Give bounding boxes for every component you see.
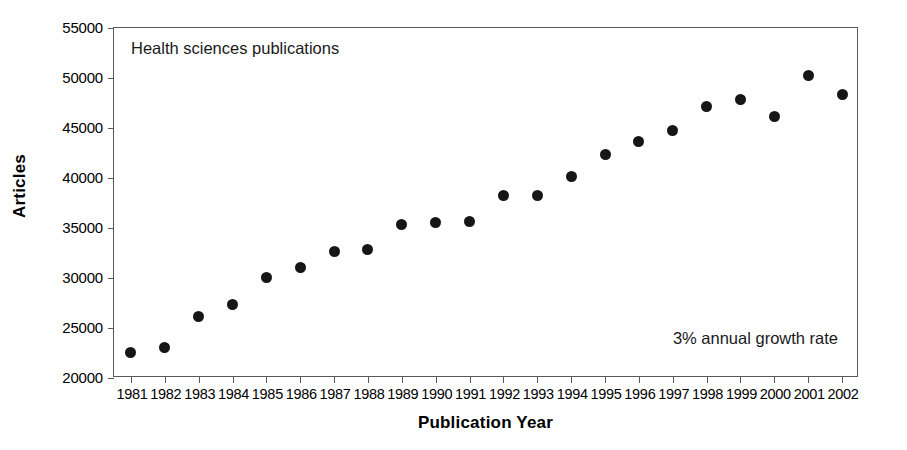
x-axis-tick: 1984	[233, 376, 234, 383]
y-axis-tick: 40000	[108, 178, 114, 179]
x-axis-tick: 1993	[537, 376, 538, 383]
data-point	[261, 272, 272, 283]
data-point	[769, 111, 780, 122]
x-axis-tick: 1996	[639, 376, 640, 383]
data-point	[295, 262, 306, 273]
x-axis-tick-label: 1982	[150, 386, 181, 402]
y-axis-tick: 55000	[108, 28, 114, 29]
chart-figure: Articles Health sciences publications 3%…	[0, 0, 907, 450]
x-axis-tick-label: 1997	[658, 386, 689, 402]
x-axis-tick: 1997	[673, 376, 674, 383]
x-axis-tick-label: 2000	[760, 386, 791, 402]
data-point	[837, 89, 848, 100]
x-axis-tick-label: 2002	[828, 386, 859, 402]
data-point	[701, 101, 712, 112]
x-axis-tick: 1985	[266, 376, 267, 383]
x-axis-tick: 1990	[436, 376, 437, 383]
x-axis-tick-label: 1994	[557, 386, 588, 402]
x-axis-tick: 1998	[707, 376, 708, 383]
x-axis-tick: 1986	[300, 376, 301, 383]
x-axis-tick-label: 1989	[387, 386, 418, 402]
data-point	[227, 299, 238, 310]
x-axis-tick-label: 1988	[353, 386, 384, 402]
plot-title-note: Health sciences publications	[131, 39, 339, 58]
x-axis-tick-label: 1998	[692, 386, 723, 402]
x-axis-tick-label: 1990	[421, 386, 452, 402]
y-axis-tick: 45000	[108, 128, 114, 129]
x-axis-tick-label: 1993	[523, 386, 554, 402]
y-axis-tick: 25000	[108, 328, 114, 329]
data-point	[667, 125, 678, 136]
x-axis-tick-label: 1991	[455, 386, 486, 402]
y-axis-tick: 20000	[108, 378, 114, 379]
growth-rate-note: 3% annual growth rate	[673, 329, 838, 348]
x-axis-tick: 1988	[368, 376, 369, 383]
x-axis-tick: 1987	[334, 376, 335, 383]
x-axis-tick-label: 1983	[184, 386, 215, 402]
data-point	[329, 246, 340, 257]
y-axis-tick-label: 30000	[62, 269, 103, 286]
x-axis-tick-label: 1987	[320, 386, 351, 402]
data-point	[633, 136, 644, 147]
x-axis-tick-label: 1986	[286, 386, 317, 402]
y-axis-tick-label: 45000	[62, 119, 103, 136]
y-axis-tick: 30000	[108, 278, 114, 279]
y-axis-tick-label: 55000	[62, 19, 103, 36]
x-axis-tick-label: 1995	[590, 386, 621, 402]
x-axis-tick-label: 1985	[252, 386, 283, 402]
data-point	[600, 149, 611, 160]
x-axis-tick-label: 2001	[794, 386, 825, 402]
y-axis-tick-label: 20000	[62, 369, 103, 386]
data-point	[532, 190, 543, 201]
x-axis-tick: 2000	[774, 376, 775, 383]
y-axis-tick-label: 50000	[62, 69, 103, 86]
x-axis-tick-label: 1992	[489, 386, 520, 402]
x-axis-tick: 1983	[199, 376, 200, 383]
y-axis-tick-label: 25000	[62, 319, 103, 336]
x-axis-tick-label: 1996	[624, 386, 655, 402]
data-point	[803, 70, 814, 81]
y-axis-tick-label: 40000	[62, 169, 103, 186]
data-point	[566, 171, 577, 182]
x-axis-tick: 1994	[571, 376, 572, 383]
x-axis-tick: 2002	[842, 376, 843, 383]
data-point	[396, 219, 407, 230]
x-axis-tick: 1991	[470, 376, 471, 383]
data-point	[193, 311, 204, 322]
data-point	[464, 216, 475, 227]
data-point	[159, 342, 170, 353]
x-axis-tick: 1982	[165, 376, 166, 383]
y-axis-tick: 50000	[108, 78, 114, 79]
data-point	[362, 244, 373, 255]
y-axis-title: Articles	[10, 106, 30, 266]
x-axis-title: Publication Year	[113, 413, 858, 433]
y-axis-tick: 35000	[108, 228, 114, 229]
x-axis-tick: 1995	[605, 376, 606, 383]
x-axis-tick: 1999	[740, 376, 741, 383]
plot-area: Health sciences publications 3% annual g…	[113, 27, 858, 377]
data-point	[125, 347, 136, 358]
data-point	[430, 217, 441, 228]
x-axis-tick-label: 1981	[116, 386, 147, 402]
x-axis-tick-label: 1999	[726, 386, 757, 402]
x-axis-tick: 1981	[131, 376, 132, 383]
y-axis-tick-label: 35000	[62, 219, 103, 236]
x-axis-tick: 1992	[503, 376, 504, 383]
data-point	[735, 94, 746, 105]
data-point	[498, 190, 509, 201]
x-axis-tick: 2001	[808, 376, 809, 383]
x-axis-tick-label: 1984	[218, 386, 249, 402]
x-axis-tick: 1989	[402, 376, 403, 383]
